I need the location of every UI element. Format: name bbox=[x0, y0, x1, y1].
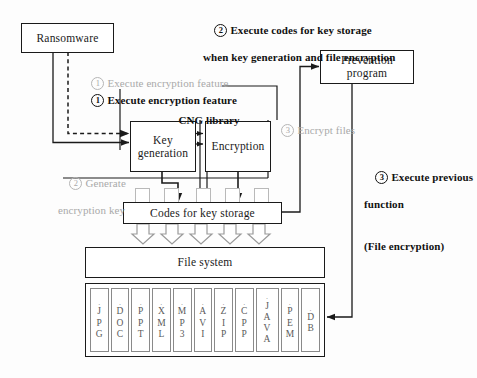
stub-rect-1 bbox=[135, 188, 150, 203]
file-type-char: 3 bbox=[180, 329, 185, 340]
file-type-cell[interactable]: .AVI bbox=[194, 288, 213, 352]
file-type-char: P bbox=[138, 306, 144, 317]
file-type-char: C bbox=[117, 329, 124, 340]
file-type-char: D bbox=[307, 312, 314, 323]
file-type-char: P bbox=[97, 318, 103, 329]
file-type-char: C bbox=[241, 306, 248, 317]
label-step3-ghost: 3Encrypt files bbox=[270, 110, 355, 151]
stub-rect-5 bbox=[254, 188, 269, 203]
stub-rect-4 bbox=[225, 188, 240, 203]
file-type-char: P bbox=[242, 318, 248, 329]
file-type-char: M bbox=[286, 329, 295, 340]
file-type-char: A bbox=[264, 312, 271, 323]
label-step3-right: 3Execute previous function (File encrypt… bbox=[364, 157, 473, 281]
file-type-char: P bbox=[138, 318, 144, 329]
file-type-char: G bbox=[96, 329, 103, 340]
label-step2-ghost-line1: Generate bbox=[85, 177, 126, 189]
file-type-cell[interactable]: .XML bbox=[152, 288, 171, 352]
file-type-char: X bbox=[158, 306, 165, 317]
label-step3-ghost-text: Encrypt files bbox=[297, 124, 355, 136]
file-type-char: I bbox=[222, 318, 225, 329]
file-type-char: T bbox=[138, 329, 144, 340]
label-step3-right-line3: (File encryption) bbox=[364, 240, 473, 254]
file-type-char: O bbox=[116, 318, 123, 329]
circled-number-2-ghost-icon: 2 bbox=[69, 177, 82, 190]
file-type-char: A bbox=[264, 334, 271, 345]
label-step3-right-line2: function bbox=[364, 198, 473, 212]
file-type-char: P bbox=[179, 318, 185, 329]
label-step2-top-line1: Execute codes for key storage bbox=[230, 24, 371, 36]
file-types-container: .JPG.DOC.PPT.XML.MP3.AVI.ZIP.CPP.JAVA.PE… bbox=[85, 283, 325, 357]
file-type-cell[interactable]: .DOC bbox=[111, 288, 130, 352]
node-codes-for-key-storage[interactable]: Codes for key storage bbox=[123, 202, 282, 224]
file-type-cell[interactable]: .PPT bbox=[131, 288, 150, 352]
label-cng-library: CNG library bbox=[167, 100, 240, 141]
circled-number-3-ghost-icon: 3 bbox=[281, 124, 294, 137]
node-ransomware-label: Ransomware bbox=[36, 32, 98, 45]
node-encryption-label: Encryption bbox=[211, 140, 264, 153]
file-type-char: V bbox=[199, 318, 206, 329]
file-type-char: P bbox=[221, 329, 227, 340]
file-type-char: J bbox=[97, 306, 101, 317]
file-type-char: J bbox=[265, 301, 269, 312]
file-type-cell[interactable]: .PEM bbox=[281, 288, 300, 352]
file-type-cell[interactable]: .MP3 bbox=[173, 288, 192, 352]
file-type-char: L bbox=[158, 329, 164, 340]
node-file-system-label: File system bbox=[178, 256, 233, 269]
node-file-system[interactable]: File system bbox=[85, 247, 325, 278]
label-step2-ghost: 2Generate encryption key bbox=[58, 163, 126, 246]
circled-number-3-icon: 3 bbox=[375, 171, 388, 184]
node-ransomware[interactable]: Ransomware bbox=[21, 23, 114, 53]
file-type-char: Z bbox=[221, 306, 227, 317]
file-type-char: A bbox=[199, 306, 206, 317]
file-type-cell[interactable]: .JAVA bbox=[256, 288, 279, 352]
label-cng-library-text: CNG library bbox=[178, 114, 239, 126]
file-type-char: M bbox=[157, 318, 166, 329]
file-type-char: P bbox=[287, 306, 293, 317]
file-type-char: D bbox=[116, 306, 123, 317]
file-type-char: I bbox=[201, 329, 204, 340]
circled-number-2-icon: 2 bbox=[214, 24, 227, 37]
node-codes-for-key-storage-label: Codes for key storage bbox=[150, 207, 255, 220]
file-type-cell[interactable]: .JPG bbox=[90, 288, 109, 352]
file-type-char: E bbox=[287, 318, 293, 329]
file-type-char: V bbox=[264, 323, 271, 334]
label-step3-right-line1: Execute previous bbox=[391, 171, 473, 183]
circled-number-1-icon: 1 bbox=[91, 94, 104, 107]
file-type-cell[interactable]: .CPP bbox=[235, 288, 254, 352]
node-key-generation-label-2: generation bbox=[138, 147, 189, 160]
label-step2-top-line2: when key generation and file encryption bbox=[203, 51, 395, 65]
file-type-char: M bbox=[178, 306, 187, 317]
diagram-canvas: Ransomware Prevention program Key genera… bbox=[0, 0, 477, 378]
file-type-cell[interactable]: .ZIP bbox=[214, 288, 233, 352]
stub-rect-3 bbox=[196, 188, 211, 203]
label-step2-ghost-line2: encryption key bbox=[58, 204, 126, 218]
file-type-char: B bbox=[307, 323, 314, 334]
stub-rect-2 bbox=[164, 188, 179, 203]
file-type-char: P bbox=[242, 329, 248, 340]
file-type-cell[interactable]: .DB bbox=[301, 288, 320, 352]
